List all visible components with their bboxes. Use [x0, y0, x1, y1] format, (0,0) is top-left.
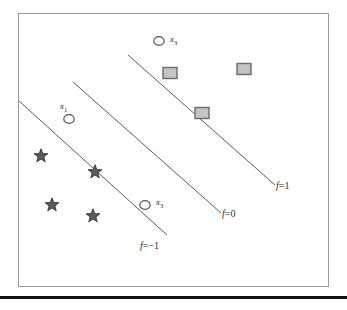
- plot-drawing-canvas: [0, 0, 347, 310]
- point-label-1: x1: [60, 101, 67, 113]
- f-value: =−1: [143, 240, 159, 251]
- circle-markers: [64, 37, 164, 210]
- star-marker-2: [45, 198, 59, 211]
- circle-marker-1: [64, 115, 74, 124]
- boundary-line-1: [73, 82, 221, 213]
- f-value: =0: [225, 208, 236, 219]
- point-label-2: x3: [156, 197, 163, 209]
- star-marker-3: [86, 209, 100, 222]
- f-value: =1: [279, 180, 290, 191]
- point-label-subscript: 3: [174, 39, 177, 46]
- boundary-line-0: [128, 55, 275, 185]
- star-marker-1: [88, 165, 102, 178]
- line-label-f=1: f=1: [276, 180, 289, 191]
- square-marker-1: [195, 108, 209, 119]
- bottom-horizontal-rule: [0, 296, 347, 299]
- figure-root: f=1f=0f=−1x3x1x3: [0, 0, 347, 310]
- circle-marker-0: [154, 37, 164, 46]
- square-marker-2: [237, 64, 251, 75]
- line-label-f=0: f=0: [222, 208, 235, 219]
- line-label-f=-1: f=−1: [140, 240, 159, 251]
- star-markers: [34, 149, 102, 222]
- point-label-subscript: 1: [64, 106, 67, 113]
- circle-marker-2: [140, 201, 150, 210]
- square-markers: [163, 64, 251, 119]
- point-label-subscript: 3: [160, 202, 163, 209]
- star-marker-0: [34, 149, 48, 162]
- point-label-0: x3: [170, 34, 177, 46]
- square-marker-0: [163, 68, 177, 79]
